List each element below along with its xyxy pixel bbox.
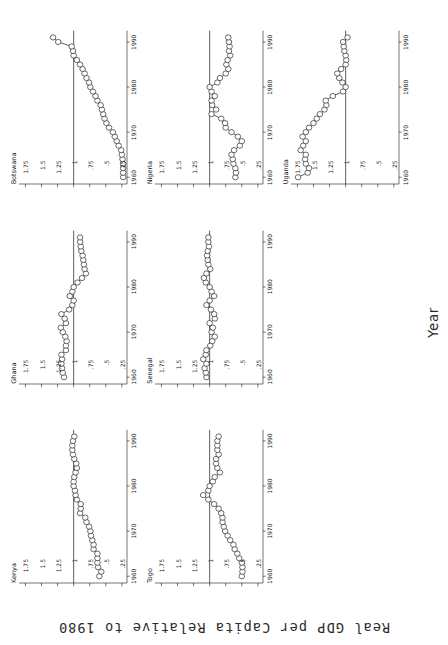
y-tick-label: 1 (70, 360, 77, 364)
panel-title: Ghana (10, 362, 18, 383)
data-point-marker (209, 112, 215, 117)
data-point-marker (69, 44, 75, 49)
y-tick-label: .75 (86, 559, 93, 569)
data-point-marker (71, 298, 77, 303)
data-point-marker (77, 235, 83, 240)
y-tick-label: 1.25 (190, 360, 197, 373)
panel-nigeria: Nigeria1.751.51.251.75.5.251960197019801… (146, 29, 278, 210)
x-tick-label: 1980 (130, 478, 137, 493)
y-tick-label: .75 (222, 559, 229, 569)
x-tick-label: 1970 (266, 524, 273, 539)
data-point-marker (58, 325, 64, 330)
data-point-marker (303, 152, 309, 157)
x-tick-label: 1980 (402, 80, 409, 95)
x-tick-label: 1980 (130, 80, 137, 95)
data-point-marker (334, 71, 340, 76)
data-point-marker (222, 121, 228, 126)
y-tick-label: .25 (118, 160, 125, 170)
x-tick-label: 1980 (130, 279, 137, 294)
data-point-marker (50, 35, 56, 40)
data-point-marker (200, 492, 206, 497)
data-point-marker (78, 501, 84, 506)
data-point-marker (217, 76, 223, 81)
y-tick-label: 1.5 (38, 160, 45, 170)
x-tick-label: 1960 (266, 170, 273, 185)
plot-area: 1.751.51.251.75.5.251960197019801990 (155, 31, 263, 184)
x-tick-label: 1970 (130, 125, 137, 140)
y-tick-label: .5 (238, 559, 245, 565)
data-line (53, 38, 123, 178)
x-tick-label: 1960 (130, 369, 137, 384)
y-tick-label: 1.75 (22, 559, 29, 572)
plot-area: 1.751.51.251.75.5.251960197019801990 (155, 430, 263, 583)
y-tick-label: 1 (342, 160, 349, 164)
data-point-marker (345, 35, 351, 40)
y-tick-label: 1 (70, 559, 77, 563)
y-tick-label: 1.25 (54, 360, 61, 373)
panel-uganda: Uganda1.751.51.251.75.5.2519601970198019… (282, 29, 414, 210)
data-point-marker (229, 130, 235, 135)
y-tick-label: .5 (102, 559, 109, 565)
data-point-marker (235, 134, 241, 139)
data-point-marker (207, 85, 213, 90)
panel-kenya: Kenya1.751.51.251.75.5.25196019701980199… (10, 428, 142, 609)
y-tick-label: .75 (86, 160, 93, 170)
x-tick-label: 1990 (402, 35, 409, 50)
data-point-marker (79, 275, 85, 280)
y-tick-label: 1.25 (54, 559, 61, 572)
panel-title: Senegal (146, 358, 154, 384)
data-point-marker (330, 94, 336, 99)
x-tick-label: 1990 (130, 234, 137, 249)
y-tick-label: .25 (390, 160, 397, 170)
panel-grid: Kenya1.751.51.251.75.5.25196019701980199… (10, 29, 414, 609)
panel-title: Kenya (10, 563, 18, 583)
figure-rotator: Real GDP per Capita Relative to 1980 Ken… (0, 0, 448, 645)
data-point-marker (317, 112, 323, 117)
panel-title: Togo (146, 568, 154, 583)
y-tick-label: 1.25 (54, 160, 61, 173)
y-tick-label: 1 (206, 360, 213, 364)
plot-area: 1.751.51.251.75.5.251960197019801990 (19, 31, 127, 184)
panel-senegal: Senegal1.751.51.251.75.5.251960197019801… (146, 228, 278, 409)
data-point-marker (204, 347, 210, 352)
data-point-marker (59, 311, 65, 316)
x-tick-label: 1960 (266, 369, 273, 384)
data-point-marker (207, 284, 213, 289)
y-tick-label: .5 (102, 160, 109, 166)
data-point-marker (207, 320, 213, 325)
data-point-marker (71, 284, 77, 289)
data-point-marker (110, 130, 116, 135)
x-tick-label: 1980 (266, 478, 273, 493)
data-point-marker (295, 175, 301, 180)
x-tick-label: 1990 (130, 433, 137, 448)
y-tick-label: 1.25 (190, 559, 197, 572)
y-tick-label: .25 (254, 559, 261, 569)
data-point-marker (208, 307, 214, 312)
data-point-marker (218, 116, 224, 121)
y-tick-label: 1.75 (158, 360, 165, 373)
panel-title: Botswana (10, 153, 18, 185)
data-point-marker (95, 551, 101, 556)
x-tick-label: 1960 (266, 569, 273, 584)
y-tick-label: .25 (118, 360, 125, 370)
y-tick-label: 1.75 (158, 559, 165, 572)
plot-area: 1.751.51.251.75.5.251960197019801990 (291, 31, 399, 184)
data-point-marker (207, 298, 213, 303)
data-point-marker (55, 40, 61, 45)
y-tick-label: 1.5 (174, 160, 181, 170)
y-tick-label: .75 (222, 160, 229, 170)
x-tick-label: 1970 (266, 125, 273, 140)
y-tick-label: 1 (70, 160, 77, 164)
x-tick-label: 1970 (130, 524, 137, 539)
x-tick-label: 1970 (266, 324, 273, 339)
y-tick-label: .5 (102, 360, 109, 366)
x-tick-label: 1990 (266, 234, 273, 249)
y-tick-label: 1.75 (294, 160, 301, 173)
y-tick-label: 1.5 (174, 360, 181, 370)
y-tick-label: 1.75 (158, 160, 165, 173)
x-tick-label: 1960 (402, 170, 409, 185)
y-tick-label: 1 (206, 160, 213, 164)
data-point-marker (211, 501, 217, 506)
y-tick-label: .75 (222, 360, 229, 370)
data-point-marker (306, 125, 312, 130)
